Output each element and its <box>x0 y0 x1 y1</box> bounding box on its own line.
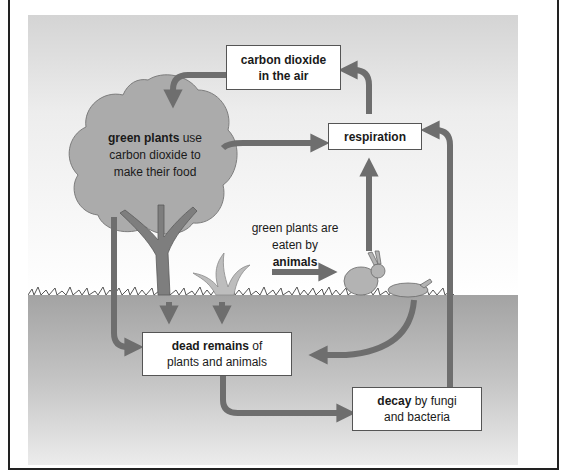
co2-line1: carbon dioxide <box>241 52 326 68</box>
co2-line2: in the air <box>258 68 308 84</box>
diagram-frame: carbon dioxide in the air respiration gr… <box>8 0 559 470</box>
green-plants-bold: green plants <box>108 131 179 145</box>
node-green-plants: green plants use carbon dioxide to make … <box>90 130 220 181</box>
eaten-bold: animals <box>273 255 318 269</box>
green-plants-rest: use <box>179 131 202 145</box>
ground <box>28 295 518 465</box>
carbon-cycle-scene: carbon dioxide in the air respiration gr… <box>28 15 518 465</box>
decay-rest: by fungi <box>411 394 456 408</box>
dead-remains-rest: of <box>249 339 262 353</box>
eaten-line1: green plants are <box>240 220 350 237</box>
eaten-line2: eaten by <box>240 237 350 254</box>
node-eaten-by-animals: green plants are eaten by animals <box>240 220 350 271</box>
node-respiration: respiration <box>328 123 422 150</box>
dead-remains-line2: plants and animals <box>167 354 267 370</box>
decay-bold: decay <box>377 394 411 408</box>
decay-line2: and bacteria <box>384 409 450 425</box>
dead-remains-bold: dead remains <box>172 339 249 353</box>
green-plants-line3: make their food <box>90 164 220 181</box>
green-plants-line2: carbon dioxide to <box>90 147 220 164</box>
node-decay: decay by fungi and bacteria <box>352 387 482 431</box>
respiration-label: respiration <box>344 129 406 145</box>
node-dead-remains: dead remains of plants and animals <box>142 332 292 376</box>
node-co2-in-air: carbon dioxide in the air <box>226 45 341 90</box>
